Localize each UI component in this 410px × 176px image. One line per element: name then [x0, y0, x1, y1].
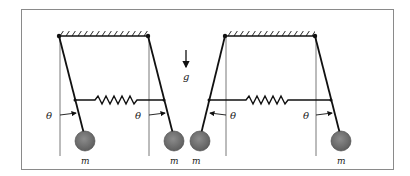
theta-label-left: θ [230, 110, 236, 121]
pendulum-rod-right [315, 36, 340, 134]
theta-label-right: θ [303, 110, 309, 121]
theta-arrow-right [149, 113, 165, 115]
gravity-label: g [183, 71, 189, 82]
gravity-indicator: g [183, 50, 189, 82]
right-panel: θ θ m m [190, 31, 351, 166]
mass-bob-left [190, 131, 210, 151]
pivot-left [57, 34, 61, 38]
mass-label-left: m [192, 156, 201, 166]
mass-bob-right [331, 131, 351, 151]
pendulum-rod-right [148, 36, 173, 134]
theta-label-left: θ [46, 110, 52, 121]
mass-bob-right [164, 131, 184, 151]
coupled-pendulum-diagram: θ θ m m g θ θ m m [0, 0, 410, 176]
spring [74, 96, 166, 104]
mass-label-right: m [337, 156, 346, 166]
mass-bob-left [75, 131, 95, 151]
pivot-left [223, 34, 227, 38]
ceiling-support [225, 31, 315, 36]
pivot-right [313, 34, 317, 38]
theta-label-right: θ [135, 110, 141, 121]
pendulum-rod-left [59, 36, 84, 134]
theta-arrow-left [60, 113, 76, 115]
pendulum-rod-left [201, 36, 225, 134]
theta-arrow-right [316, 113, 332, 115]
ceiling-support [59, 31, 148, 36]
theta-arrow-left [210, 113, 226, 115]
mass-label-right: m [170, 156, 179, 166]
left-panel: θ θ m m [46, 31, 184, 166]
mass-label-left: m [81, 156, 90, 166]
pivot-right [146, 34, 150, 38]
